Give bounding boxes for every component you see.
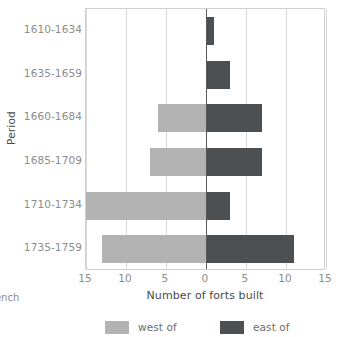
plot-area bbox=[85, 8, 325, 270]
y-tick-label-1735-1759: 1735-1759 bbox=[12, 241, 82, 255]
y-tick-label-1685-1709: 1685-1709 bbox=[12, 154, 82, 168]
x-tick-label-3: 0 bbox=[190, 272, 220, 284]
bar-east-of-1685-1709 bbox=[206, 148, 262, 176]
x-tick-label-6: 15 bbox=[310, 272, 338, 284]
bar-west-of-1735-1759 bbox=[102, 235, 206, 263]
x-tick-label-2: 5 bbox=[150, 272, 180, 284]
y-tick-label-1635-1659: 1635-1659 bbox=[12, 67, 82, 81]
caption-line-2: e bbox=[0, 304, 56, 316]
bar-east-of-1735-1759 bbox=[206, 235, 294, 263]
bar-east-of-1660-1684 bbox=[206, 104, 262, 132]
y-tick-label-1610-1634: 1610-1634 bbox=[12, 23, 82, 37]
legend-label-east-of: east of bbox=[253, 321, 290, 333]
legend-label-west-of: west of bbox=[138, 321, 177, 333]
caption-line-3: ... bbox=[0, 315, 56, 327]
bar-east-of-1610-1634 bbox=[206, 17, 214, 45]
bar-west-of-1710-1734 bbox=[86, 192, 206, 220]
x-axis-title: Number of forts built bbox=[85, 289, 325, 302]
legend-swatch-west-of bbox=[105, 321, 129, 334]
bar-east-of-1710-1734 bbox=[206, 192, 230, 220]
x-tick-label-4: 5 bbox=[230, 272, 260, 284]
bar-east-of-1635-1659 bbox=[206, 61, 230, 89]
zero-axis-line bbox=[206, 9, 207, 269]
x-axis-tick-labels: 15105051015 bbox=[85, 272, 325, 286]
x-tick-label-1: 10 bbox=[110, 272, 140, 284]
x-tick-label-5: 10 bbox=[270, 272, 300, 284]
bar-chart-figure: Period 1610-16341635-16591660-16841685-1… bbox=[0, 0, 338, 337]
y-tick-label-1660-1684: 1660-1684 bbox=[12, 110, 82, 124]
legend-swatch-east-of bbox=[220, 321, 244, 334]
y-axis-tick-labels: 1610-16341635-16591660-16841685-17091710… bbox=[12, 8, 82, 270]
y-tick-label-1710-1734: 1710-1734 bbox=[12, 198, 82, 212]
x-tick-label-0: 15 bbox=[70, 272, 100, 284]
caption-line-1: French bbox=[0, 292, 56, 304]
bar-west-of-1660-1684 bbox=[158, 104, 206, 132]
figure-caption: French e ... bbox=[0, 292, 56, 327]
gridline-15 bbox=[326, 9, 327, 269]
bar-west-of-1685-1709 bbox=[150, 148, 206, 176]
